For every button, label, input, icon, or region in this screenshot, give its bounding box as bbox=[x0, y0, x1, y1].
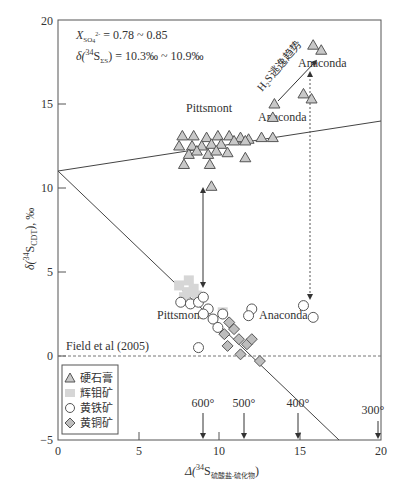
dss-annotation: δ(34SΣS) = 10.3‰ ~ 10.9‰ bbox=[76, 48, 204, 65]
triangle-data-point bbox=[178, 159, 189, 169]
y-tick: 10 bbox=[41, 181, 53, 195]
x-axis-title: Δ(34S硫酸盐-硫化物) bbox=[184, 463, 259, 480]
circle-data-point bbox=[198, 292, 208, 302]
square-icon bbox=[65, 389, 75, 397]
y-tick: 15 bbox=[41, 97, 53, 111]
legend-label: 黄铁矿 bbox=[80, 401, 113, 414]
triangle-data-point bbox=[177, 130, 188, 140]
triangle-data-point bbox=[308, 40, 319, 50]
circle-data-point bbox=[308, 312, 318, 322]
circle-icon bbox=[66, 404, 75, 413]
h2s-trend-label: H₂S逃逸趋势 bbox=[254, 38, 303, 93]
temp-600-label: 600° bbox=[192, 396, 215, 410]
diamond-data-point bbox=[222, 340, 233, 351]
x-tick: 0 bbox=[55, 444, 61, 458]
x-tick: 10 bbox=[213, 444, 225, 458]
anaconda-mid-label: Anaconda bbox=[258, 110, 307, 124]
pittsmont-upper-label: Pittsmont bbox=[186, 101, 233, 115]
triangle-data-point bbox=[240, 152, 251, 162]
y-tick: 20 bbox=[41, 14, 53, 28]
y-tick: 5 bbox=[47, 265, 53, 279]
anaconda-upper-label: Anaconda bbox=[298, 56, 347, 70]
legend-label: 硬石膏 bbox=[80, 371, 113, 384]
triangle-data-point bbox=[212, 130, 223, 140]
temp-500-label: 500° bbox=[233, 396, 256, 410]
x-tick: 20 bbox=[375, 444, 387, 458]
temp-300-label: 300° bbox=[362, 403, 385, 417]
x-tick: 5 bbox=[136, 444, 142, 458]
temperature-arrows bbox=[203, 413, 378, 436]
field-reference-label: Field et al (2005) bbox=[66, 339, 149, 353]
chart: −5 0 5 10 15 20 0 5 10 15 20 Δ(34S硫酸盐-硫化… bbox=[0, 0, 403, 492]
circle-data-point bbox=[218, 309, 228, 319]
circle-data-point bbox=[198, 309, 208, 319]
triangle-data-point bbox=[269, 99, 280, 109]
circle-data-point bbox=[194, 343, 204, 353]
pittsmont-lower-label: Pittsmont bbox=[157, 308, 204, 322]
temperature-labels: 600° 500° 400° 300° bbox=[192, 396, 385, 417]
y-tick: 0 bbox=[47, 349, 53, 363]
triangle-data-point bbox=[206, 181, 217, 191]
triangle-data-point bbox=[298, 88, 309, 98]
legend-label: 辉钼矿 bbox=[80, 386, 113, 399]
triangle-data-point bbox=[256, 132, 267, 142]
triangle-data-point bbox=[174, 141, 185, 151]
circle-data-point bbox=[298, 301, 308, 311]
x-tick: 15 bbox=[294, 444, 306, 458]
circle-data-point bbox=[176, 297, 186, 307]
xso4-annotation: XSO42- = 0.78 ~ 0.85 bbox=[75, 28, 168, 44]
legend: 硬石膏 辉钼矿 黄铁矿 黄铜矿 bbox=[62, 365, 118, 434]
circle-data-point bbox=[244, 311, 254, 321]
legend-label: 黄铜矿 bbox=[80, 416, 113, 429]
x-tick-labels: 0 5 10 15 20 bbox=[55, 444, 387, 458]
temp-400-label: 400° bbox=[287, 396, 310, 410]
triangle-data-point bbox=[188, 130, 199, 140]
y-tick-labels: −5 0 5 10 15 20 bbox=[40, 14, 53, 447]
diamond-data-point bbox=[254, 356, 265, 367]
triangle-data-point bbox=[204, 159, 215, 169]
y-tick: −5 bbox=[40, 433, 53, 447]
x-axis bbox=[139, 432, 300, 440]
diamond-data-point bbox=[235, 349, 246, 360]
y-axis-title: δ(34SCDT), ‰ bbox=[22, 208, 39, 270]
y-axis bbox=[58, 104, 66, 356]
